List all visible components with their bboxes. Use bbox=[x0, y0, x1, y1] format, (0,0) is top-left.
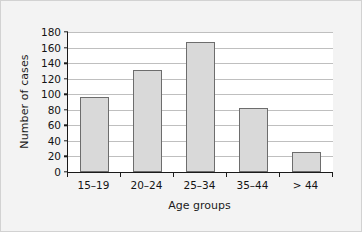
y-axis-tick-label: 20 bbox=[19, 150, 61, 162]
bar bbox=[186, 42, 215, 172]
x-axis-tick-mark bbox=[173, 172, 174, 177]
bar bbox=[292, 152, 321, 172]
y-axis-tick-label: 120 bbox=[19, 73, 61, 85]
plot-area bbox=[67, 32, 333, 173]
x-axis-category-label: 20–24 bbox=[117, 179, 177, 191]
y-axis-tick-label: 80 bbox=[19, 104, 61, 116]
x-axis-category-label: > 44 bbox=[276, 179, 336, 191]
bar-series bbox=[68, 32, 333, 172]
y-axis-tick-mark bbox=[64, 78, 68, 79]
x-axis-tick-mark bbox=[67, 172, 68, 177]
y-axis-tick-mark bbox=[64, 62, 68, 63]
bar-slot bbox=[174, 32, 227, 172]
y-axis-tick-mark bbox=[64, 94, 68, 95]
y-axis-tick-label: 100 bbox=[19, 88, 61, 100]
bar-slot bbox=[280, 32, 333, 172]
bar bbox=[133, 70, 162, 172]
y-axis-tick-label: 180 bbox=[19, 26, 61, 38]
bar bbox=[80, 97, 109, 172]
x-axis-tick-mark bbox=[120, 172, 121, 177]
y-axis-tick-mark bbox=[64, 109, 68, 110]
y-axis-tick-mark bbox=[64, 31, 68, 32]
x-axis-tick-mark bbox=[332, 172, 333, 177]
bar-slot bbox=[227, 32, 280, 172]
x-axis-category-label: 35–44 bbox=[223, 179, 283, 191]
y-axis-tick-label: 140 bbox=[19, 57, 61, 69]
y-axis-tick-label: 40 bbox=[19, 135, 61, 147]
x-axis-tick-mark bbox=[226, 172, 227, 177]
y-axis-tick-mark bbox=[64, 125, 68, 126]
bar-slot bbox=[68, 32, 121, 172]
bar-slot bbox=[121, 32, 174, 172]
y-axis-tick-label: 0 bbox=[19, 166, 61, 178]
x-axis-tick-mark bbox=[279, 172, 280, 177]
bar bbox=[239, 108, 268, 172]
x-axis-title: Age groups bbox=[67, 199, 332, 212]
y-axis-tick-mark bbox=[64, 47, 68, 48]
y-axis-tick-label: 160 bbox=[19, 42, 61, 54]
x-axis-category-label: 25–34 bbox=[170, 179, 230, 191]
bar-chart-figure: Number of cases 15–1920–2425–3435–44> 44… bbox=[0, 0, 362, 232]
y-axis-tick-mark bbox=[64, 156, 68, 157]
y-axis-tick-mark bbox=[64, 140, 68, 141]
y-axis-tick-label: 60 bbox=[19, 119, 61, 131]
x-axis-category-label: 15–19 bbox=[64, 179, 124, 191]
